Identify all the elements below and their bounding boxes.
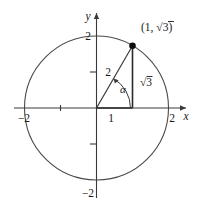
y-axis-label: y	[84, 10, 91, 23]
x-axis-min-tick-label: −2	[18, 112, 30, 124]
angle-alpha-label: α	[120, 83, 126, 95]
trigonometry-unit-circle-figure: x y −2 2 2 −2 1 2 α √3 (1, √3)	[0, 0, 204, 213]
figure-canvas: x y −2 2 2 −2 1 2 α √3 (1, √3)	[0, 0, 204, 213]
vertical-leg-length-text: √3	[140, 76, 152, 88]
x-axis-max-tick-label: 2	[169, 112, 175, 124]
y-axis-max-tick-label: 2	[85, 30, 91, 42]
hypotenuse-length-label: 2	[105, 66, 111, 78]
point-coordinates-label: (1, √3)	[141, 21, 174, 34]
terminal-point-dot	[129, 42, 136, 49]
triangle-hypotenuse	[97, 46, 133, 108]
x-axis-label: x	[182, 110, 189, 122]
vertical-leg-length-label: √3	[140, 76, 153, 88]
point-coordinates-text: (1, √3)	[141, 21, 172, 34]
y-axis-min-tick-label: −2	[82, 187, 94, 199]
y-axis-arrow-icon	[94, 13, 99, 19]
horizontal-leg-length-label: 1	[108, 112, 114, 124]
